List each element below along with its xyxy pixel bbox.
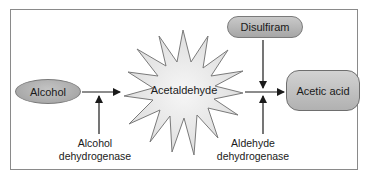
- enzyme-adh-line2: dehydrogenase: [50, 150, 140, 163]
- node-disulfiram: Disulfiram: [227, 16, 303, 38]
- node-acetic-acid: Acetic acid: [286, 70, 360, 111]
- node-disulfiram-label: Disulfiram: [241, 21, 290, 33]
- node-acetic-acid-label: Acetic acid: [296, 85, 349, 97]
- enzyme-adh-line1: Alcohol: [50, 137, 140, 150]
- node-acetaldehyde-label: Acetaldehyde: [151, 84, 218, 96]
- node-alcohol-label: Alcohol: [30, 86, 66, 98]
- enzyme-aldh-line1: Aldehyde: [205, 137, 301, 150]
- enzyme-aldehyde-dehydrogenase: Aldehyde dehydrogenase: [205, 137, 301, 163]
- node-alcohol: Alcohol: [15, 79, 81, 104]
- node-acetaldehyde: Acetaldehyde: [143, 82, 225, 98]
- enzyme-aldh-line2: dehydrogenase: [205, 150, 301, 163]
- enzyme-alcohol-dehydrogenase: Alcohol dehydrogenase: [50, 137, 140, 163]
